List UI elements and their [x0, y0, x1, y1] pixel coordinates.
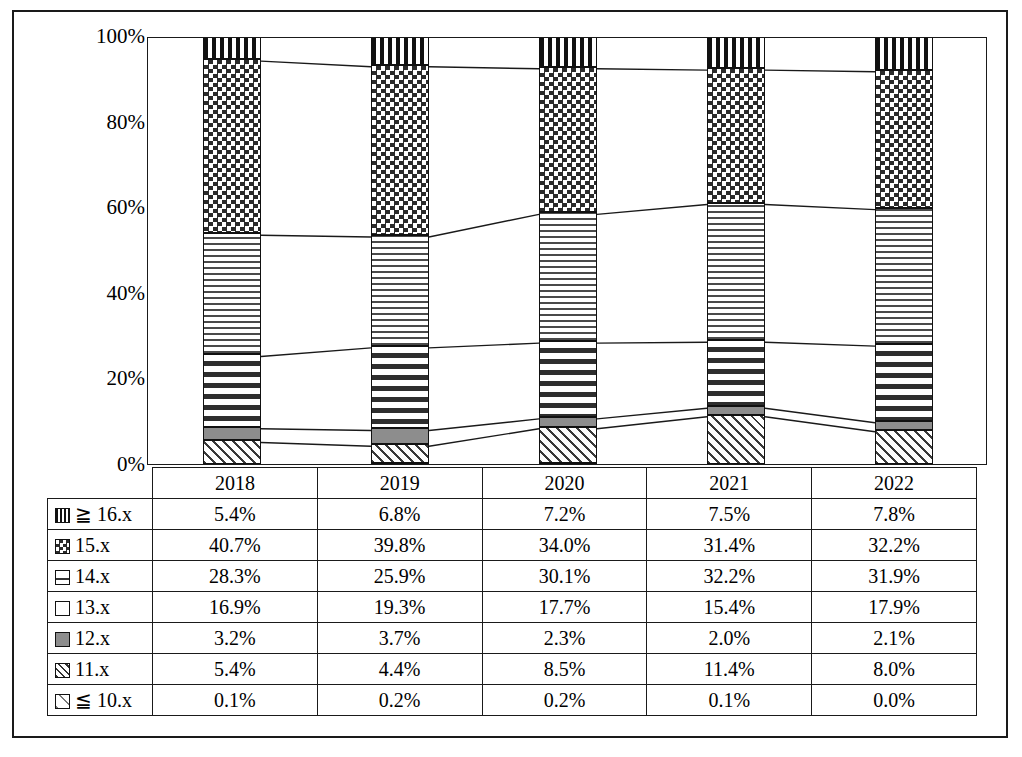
- table-row: 15.x40.7%39.8%34.0%31.4%32.2%: [48, 530, 977, 561]
- y-axis-tick: [147, 295, 148, 296]
- table-row: 13.x16.9%19.3%17.7%15.4%17.9%: [48, 592, 977, 623]
- y-axis-tick: [147, 124, 148, 125]
- legend-label: 12.x: [75, 627, 110, 649]
- table-row: 12.x3.2%3.7%2.3%2.0%2.1%: [48, 623, 977, 654]
- legend-row-header: 13.x: [48, 592, 153, 623]
- y-tick-label: 20%: [107, 368, 146, 389]
- bar-segment: [539, 212, 597, 341]
- table-cell: 2.0%: [647, 623, 812, 654]
- table-cell: 3.2%: [153, 623, 318, 654]
- table-cell: 0.0%: [812, 685, 977, 716]
- bars-layer: [148, 38, 986, 464]
- table-cell: 2.1%: [812, 623, 977, 654]
- legend-label: 14.x: [75, 565, 110, 587]
- bar-segment: [875, 430, 933, 464]
- data-table-wrapper: 20182019202020212022≧ 16.x5.4%6.8%7.2%7.…: [47, 467, 977, 725]
- y-axis-tick: [147, 209, 148, 210]
- bar-segment: [371, 235, 429, 346]
- y-tick-label: 60%: [107, 197, 146, 218]
- table-cell: 4.4%: [317, 654, 482, 685]
- table-column-header: 2018: [153, 468, 318, 499]
- data-table: 20182019202020212022≧ 16.x5.4%6.8%7.2%7.…: [47, 467, 977, 716]
- legend-label: ≦ 10.x: [75, 689, 132, 711]
- bar-segment: [371, 346, 429, 429]
- table-cell: 0.2%: [482, 685, 647, 716]
- table-cell: 8.0%: [812, 654, 977, 685]
- legend-swatch-icon: [55, 539, 70, 554]
- table-cell: 2.3%: [482, 623, 647, 654]
- bar-segment: [371, 428, 429, 444]
- table-row: 14.x28.3%25.9%30.1%32.2%31.9%: [48, 561, 977, 592]
- legend-row-header: 15.x: [48, 530, 153, 561]
- legend-swatch-icon: [55, 694, 70, 709]
- bar-segment: [707, 68, 765, 202]
- bar-segment: [707, 37, 765, 68]
- table-cell: 30.1%: [482, 561, 647, 592]
- bar-column: [707, 38, 765, 464]
- stacked-column-chart: 0%20%40%60%80%100%: [14, 12, 1010, 472]
- y-axis-tick: [147, 380, 148, 381]
- table-cell: 32.2%: [812, 530, 977, 561]
- legend-swatch-icon: [55, 632, 70, 647]
- bar-segment: [203, 59, 261, 233]
- bar-segment: [203, 427, 261, 441]
- table-column-header: 2020: [482, 468, 647, 499]
- bar-segment: [539, 417, 597, 427]
- bar-segment: [539, 37, 597, 67]
- table-cell: 11.4%: [647, 654, 812, 685]
- y-tick-label: 40%: [107, 283, 146, 304]
- table-cell: 7.5%: [647, 499, 812, 530]
- bar-column: [539, 38, 597, 464]
- table-cell: 25.9%: [317, 561, 482, 592]
- legend-row-header: 14.x: [48, 561, 153, 592]
- table-column-header: 2021: [647, 468, 812, 499]
- y-tick-label: 80%: [107, 112, 146, 133]
- bar-segment: [203, 37, 261, 59]
- bar-segment: [707, 203, 765, 341]
- bar-column: [875, 38, 933, 464]
- table-row: ≦ 10.x0.1%0.2%0.2%0.1%0.0%: [48, 685, 977, 716]
- bar-segment: [539, 427, 597, 463]
- bar-segment: [203, 354, 261, 426]
- bar-segment: [539, 67, 597, 213]
- legend-label: ≧ 16.x: [75, 503, 132, 525]
- table-cell: 16.9%: [153, 592, 318, 623]
- legend-label: 13.x: [75, 596, 110, 618]
- table-cell: 40.7%: [153, 530, 318, 561]
- table-column-header: 2022: [812, 468, 977, 499]
- bar-segment: [371, 444, 429, 463]
- table-cell: 5.4%: [153, 654, 318, 685]
- table-row: 11.x5.4%4.4%8.5%11.4%8.0%: [48, 654, 977, 685]
- bar-segment: [203, 440, 261, 463]
- bar-column: [203, 38, 261, 464]
- bar-segment: [875, 37, 933, 70]
- table-cell: 17.7%: [482, 592, 647, 623]
- bar-segment: [875, 421, 933, 430]
- y-tick-label: 100%: [96, 26, 145, 47]
- legend-label: 11.x: [75, 658, 109, 680]
- table-cell: 31.9%: [812, 561, 977, 592]
- bar-segment: [707, 406, 765, 415]
- legend-swatch-icon: [55, 508, 70, 523]
- legend-row-header: 12.x: [48, 623, 153, 654]
- table-cell: 19.3%: [317, 592, 482, 623]
- figure-frame: 0%20%40%60%80%100% 20182019202020212022≧…: [12, 10, 1008, 738]
- legend-row-header: ≦ 10.x: [48, 685, 153, 716]
- table-cell: 8.5%: [482, 654, 647, 685]
- legend-swatch-icon: [55, 570, 70, 585]
- table-cell: 32.2%: [647, 561, 812, 592]
- bar-column: [371, 38, 429, 464]
- bar-segment: [371, 65, 429, 235]
- table-cell: 5.4%: [153, 499, 318, 530]
- table-cell: 7.8%: [812, 499, 977, 530]
- bar-segment: [203, 233, 261, 354]
- table-cell: 7.2%: [482, 499, 647, 530]
- legend-row-header: ≧ 16.x: [48, 499, 153, 530]
- bar-segment: [371, 37, 429, 65]
- table-cell: 0.1%: [153, 685, 318, 716]
- table-cell: 39.8%: [317, 530, 482, 561]
- bar-segment: [875, 70, 933, 208]
- bar-segment: [707, 340, 765, 406]
- bar-segment: [875, 208, 933, 345]
- table-cell: 31.4%: [647, 530, 812, 561]
